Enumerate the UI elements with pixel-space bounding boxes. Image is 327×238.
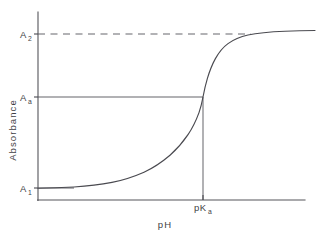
aa-label-subscript: a bbox=[28, 98, 32, 105]
a2-label-subscript: 2 bbox=[28, 35, 32, 42]
a1-label-base: A bbox=[20, 183, 27, 194]
x-axis-title: pH bbox=[158, 219, 172, 230]
pka-label-subscript: a bbox=[208, 208, 212, 215]
a1-label-subscript: 1 bbox=[28, 189, 32, 196]
pka-label-base: pK bbox=[194, 202, 207, 213]
aa-label-base: A bbox=[20, 92, 27, 103]
y-axis-title: Absorbance bbox=[7, 99, 18, 161]
chart-background bbox=[0, 0, 327, 238]
absorbance-ph-titration-chart: A 2 A a A 1 pK a pH Absorbance bbox=[0, 0, 327, 238]
a2-label-base: A bbox=[20, 29, 27, 40]
